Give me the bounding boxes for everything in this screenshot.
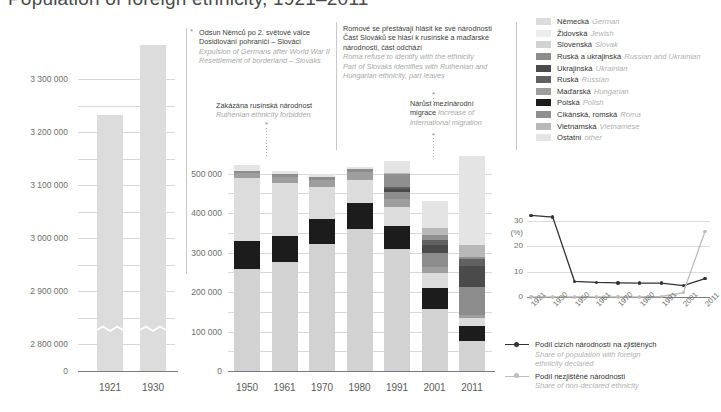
legend-label: NěmeckáGerman xyxy=(557,17,620,26)
legend-item: UkrajinskáUkrainian xyxy=(536,62,701,74)
annotation-roma-slovaks: Romové se přestávají hlásit ke své národ… xyxy=(343,24,515,80)
annotation-line-en: Resettlement of borderland – Slovaks xyxy=(199,56,349,65)
legend-swatch xyxy=(536,134,551,141)
share-line-chart: 3020100(%)192119301950196119701980199120… xyxy=(505,205,710,315)
annotation-line-cs: Část Slováků se hlásí k rusínské a maďar… xyxy=(343,33,515,42)
legend-label-en: Jewish xyxy=(590,29,613,38)
legend-label-en: Slovak xyxy=(595,40,618,49)
legend-label-cs: Vietnamská xyxy=(557,122,597,131)
legend-label-en: Russian xyxy=(582,75,609,84)
annotation-expulsion: Odsun Němců po 2. světové válceDosidlová… xyxy=(199,28,349,66)
annotation-line-en: Ruthenian ethnicity forbidden xyxy=(216,110,346,119)
annotation-line-cs: Dosidlování pohraničí – Slováci xyxy=(199,37,349,46)
annotation-line-cs: Romové se přestávají hlásit ke své národ… xyxy=(343,24,515,33)
legend-label: ŽidovskáJewish xyxy=(557,29,614,38)
legend-label-en: Ukrainian xyxy=(595,64,627,73)
legend-item: VietnamskáVietnamese xyxy=(536,120,701,132)
legend-label-cs: Maďarská xyxy=(557,87,591,96)
annotation-line-cs: migrace Increase of xyxy=(410,108,515,117)
legend-label-cs: Cikánská, romská xyxy=(557,110,617,119)
legend-swatch xyxy=(536,53,551,60)
line-legend-label-en: ethnicity declared xyxy=(535,359,656,369)
legend-label: Ruská a ukrajinskáRussian and Ukrainian xyxy=(557,52,701,61)
legend-label: UkrajinskáUkrainian xyxy=(557,64,628,73)
line-legend-label-en: Share of population with foreign xyxy=(535,350,656,360)
line-data-point xyxy=(703,230,706,233)
line-legend-label: Podíl cizích národností na zjištěnýchSha… xyxy=(535,340,656,369)
legend-label: PolskáPolish xyxy=(557,98,603,107)
legend-label: MaďarskáHungarian xyxy=(557,87,629,96)
line-chart-legend: Podíl cizích národností na zjištěnýchSha… xyxy=(505,340,715,394)
annotation-line-cs: národnosti, část odchází xyxy=(343,43,515,52)
line-data-point xyxy=(703,277,706,280)
line-legend-item: Podíl cizích národností na zjištěnýchSha… xyxy=(505,340,715,369)
annotation-line-cs: Odsun Němců po 2. světové válce xyxy=(199,28,349,37)
annotation-leader xyxy=(266,128,267,156)
annotation-migration: Nárůst mezinárodnímigrace Increase ofint… xyxy=(410,99,515,127)
line-data-point xyxy=(529,214,532,217)
annotation-line-en: Expulsion of Germans after World War II xyxy=(199,47,349,56)
annotation-line-en: international migration xyxy=(410,118,515,127)
legend-label-cs: Německá xyxy=(557,17,589,26)
annotation-leader xyxy=(433,138,434,158)
legend-item: Ostatníother xyxy=(536,132,701,144)
legend-label-cs: Ukrajinská xyxy=(557,64,592,73)
line-legend-label: Podíl nezjištěné národnostiShare of non-… xyxy=(535,372,639,391)
legend-label-en: Russian and Ukrainian xyxy=(624,52,700,61)
legend-item: NěmeckáGerman xyxy=(536,16,701,28)
legend-item: Cikánská, romskáRoma xyxy=(536,109,701,121)
line-legend-item: Podíl nezjištěné národnostiShare of non-… xyxy=(505,372,715,391)
annotation-divider xyxy=(516,22,517,150)
legend-label-cs: Polská xyxy=(557,98,580,107)
legend-label: SlovenskáSlovak xyxy=(557,40,618,49)
legend-label-cs: Ruská a ukrajinská xyxy=(557,52,621,61)
legend-label: VietnamskáVietnamese xyxy=(557,122,640,131)
legend-swatch xyxy=(536,88,551,95)
legend-label-en: German xyxy=(592,17,619,26)
legend-swatch xyxy=(536,76,551,83)
legend-item: SlovenskáSlovak xyxy=(536,39,701,51)
legend-item: RuskáRussian xyxy=(536,74,701,86)
legend-item: PolskáPolish xyxy=(536,97,701,109)
legend-swatch xyxy=(536,41,551,48)
legend-label-en: other xyxy=(584,133,601,142)
line-legend-label-cs: Podíl nezjištěné národnosti xyxy=(535,372,625,381)
legend-label-en: Roma xyxy=(620,110,640,119)
legend-item: ŽidovskáJewish xyxy=(536,28,701,40)
legend-label: RuskáRussian xyxy=(557,75,609,84)
line-legend-marker xyxy=(505,340,529,349)
legend-swatch xyxy=(536,65,551,72)
legend-label-cs: Slovenská xyxy=(557,40,592,49)
line-data-point xyxy=(660,281,663,284)
line-legend-label-cs: Podíl cizích národností na zjištěných xyxy=(535,340,656,349)
annotation-line-en: Hungarian ethnicity, part leaves xyxy=(343,71,515,80)
legend-swatch xyxy=(536,111,551,118)
legend-label-cs: Ostatní xyxy=(557,133,581,142)
line-data-point xyxy=(595,281,598,284)
line-data-point xyxy=(616,281,619,284)
annotation-line-en: Part of Slovaks identifies with Ruthenia… xyxy=(343,62,515,71)
annotation-star-expulsion: * xyxy=(190,27,193,36)
legend-swatch xyxy=(536,99,551,106)
legend-swatch xyxy=(536,30,551,37)
legend-swatch xyxy=(536,18,551,25)
annotation-divider xyxy=(186,28,187,274)
legend-label-cs: Ruská xyxy=(557,75,579,84)
legend-label-en: Hungarian xyxy=(594,87,629,96)
legend-label-en: Vietnamese xyxy=(600,122,640,131)
annotation-ruthenian: Zakázána rusínská národnostRuthenian eth… xyxy=(216,101,346,120)
legend-label-cs: Židovská xyxy=(557,29,587,38)
legend-label: Cikánská, romskáRoma xyxy=(557,110,641,119)
legend-swatch xyxy=(536,123,551,130)
line-legend-marker xyxy=(505,372,529,381)
annotation-line-cs: Nárůst mezinárodní xyxy=(410,99,515,108)
legend-item: Ruská a ukrajinskáRussian and Ukrainian xyxy=(536,51,701,63)
legend-label: Ostatníother xyxy=(557,133,602,142)
annotation-line-en: Roma refuse to identify with the ethnici… xyxy=(343,52,515,61)
legend-label-en: Polish xyxy=(583,98,604,107)
ethnicity-legend: NěmeckáGermanŽidovskáJewishSlovenskáSlov… xyxy=(536,16,701,144)
legend-item: MaďarskáHungarian xyxy=(536,86,701,98)
annotation-line-cs: Zakázána rusínská národnost xyxy=(216,101,346,110)
line-legend-label-en: Share of non-declared ethnicity xyxy=(535,381,639,391)
